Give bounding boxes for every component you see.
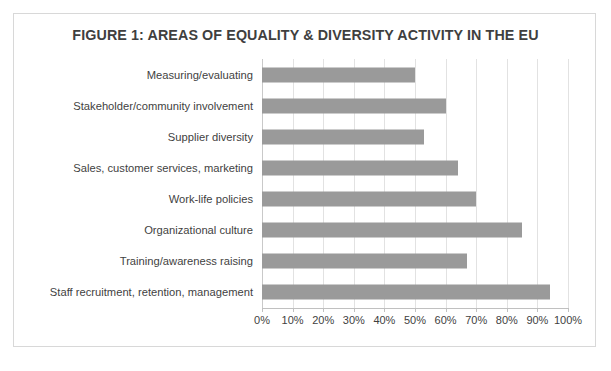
x-axis-tick: [476, 308, 477, 312]
bar-row: Staff recruitment, retention, management: [262, 277, 568, 308]
x-axis-tick: [568, 308, 569, 312]
bar-row: Work-life policies: [262, 184, 568, 215]
x-axis-tick-label: 100%: [554, 314, 582, 326]
x-axis-tick: [384, 308, 385, 312]
bar-row: Training/awareness raising: [262, 246, 568, 277]
x-axis-tick: [354, 308, 355, 312]
x-axis-tick-label: 20%: [312, 314, 334, 326]
x-axis-tick: [446, 308, 447, 312]
x-axis-tick-label: 0%: [254, 314, 270, 326]
category-label: Measuring/evaluating: [147, 69, 253, 81]
bar: [262, 223, 522, 238]
bar: [262, 129, 424, 144]
category-label: Supplier diversity: [168, 131, 253, 143]
category-label: Work-life policies: [169, 193, 253, 205]
bar: [262, 254, 467, 269]
x-axis-tick-label: 90%: [526, 314, 548, 326]
bar-row: Organizational culture: [262, 215, 568, 246]
gridline: [568, 59, 569, 308]
bar-row: Stakeholder/community involvement: [262, 90, 568, 121]
x-axis-tick: [415, 308, 416, 312]
bar: [262, 67, 415, 82]
plot-area: Measuring/evaluatingStakeholder/communit…: [262, 59, 568, 308]
bar: [262, 285, 550, 300]
bar: [262, 98, 446, 113]
x-axis-tick-label: 50%: [404, 314, 426, 326]
bar-row: Sales, customer services, marketing: [262, 152, 568, 183]
category-label: Organizational culture: [144, 224, 253, 236]
category-label: Training/awareness raising: [120, 255, 253, 267]
x-axis-tick: [323, 308, 324, 312]
bar: [262, 192, 476, 207]
bar-row: Measuring/evaluating: [262, 59, 568, 90]
category-label: Stakeholder/community involvement: [73, 100, 253, 112]
x-axis-tick-label: 10%: [282, 314, 304, 326]
x-axis-tick-label: 80%: [496, 314, 518, 326]
x-axis-tick: [293, 308, 294, 312]
category-label: Staff recruitment, retention, management: [50, 286, 253, 298]
x-axis-tick-label: 60%: [435, 314, 457, 326]
x-axis-tick-label: 30%: [343, 314, 365, 326]
bar-row: Supplier diversity: [262, 121, 568, 152]
category-label: Sales, customer services, marketing: [73, 162, 253, 174]
x-axis-tick: [507, 308, 508, 312]
bar: [262, 160, 458, 175]
x-axis-tick: [537, 308, 538, 312]
x-axis-tick-label: 70%: [465, 314, 487, 326]
bar-chart: Measuring/evaluatingStakeholder/communit…: [14, 14, 597, 348]
figure-card: FIGURE 1: AREAS OF EQUALITY & DIVERSITY …: [13, 13, 596, 347]
x-axis-tick: [262, 308, 263, 312]
x-axis-tick-label: 40%: [373, 314, 395, 326]
